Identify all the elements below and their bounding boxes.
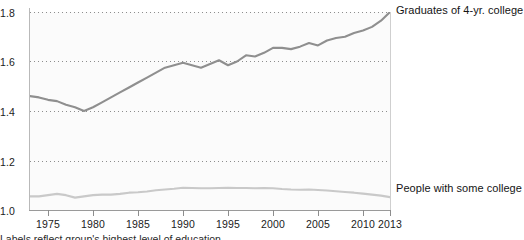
- x-tick-2010: [363, 210, 364, 216]
- chart-footnote: Labels reflect group's highest level of …: [0, 233, 524, 240]
- x-tick-label-1975: 1975: [32, 218, 64, 230]
- series-label-some-college: People with some college: [396, 182, 522, 194]
- x-tick-label-2013: 2013: [374, 218, 406, 230]
- y-tick-label-1-6: 1.6: [0, 56, 25, 68]
- x-tick-1975: [48, 210, 49, 216]
- y-tick-label-1-2: 1.2: [0, 156, 25, 168]
- plot-right-edge: [390, 12, 391, 211]
- x-tick-1985: [138, 210, 139, 216]
- x-tick-label-1980: 1980: [77, 218, 109, 230]
- x-tick-label-2005: 2005: [302, 218, 334, 230]
- x-tick-1980: [93, 210, 94, 216]
- x-tick-1995: [228, 210, 229, 216]
- x-tick-2000: [273, 210, 274, 216]
- x-tick-label-2000: 2000: [257, 218, 289, 230]
- y-tick-label-1-0: 1.0: [0, 205, 25, 217]
- line-graduates-4yr-college: [30, 12, 390, 111]
- x-tick-1990: [183, 210, 184, 216]
- x-axis-line: [29, 210, 391, 211]
- x-tick-2005: [318, 210, 319, 216]
- x-tick-label-1995: 1995: [212, 218, 244, 230]
- series-label-graduates: Graduates of 4-yr. college: [396, 4, 523, 16]
- chart-figure: 1.8 1.6 1.4 1.2 1.0 19751980198519901995…: [0, 0, 524, 240]
- line-people-with-some-college: [30, 188, 390, 198]
- x-tick-2013: [390, 210, 391, 216]
- y-tick-label-1-8: 1.8: [0, 7, 25, 19]
- x-tick-label-1985: 1985: [122, 218, 154, 230]
- series-lines: [30, 12, 390, 210]
- y-tick-label-1-4: 1.4: [0, 106, 25, 118]
- x-tick-label-1990: 1990: [167, 218, 199, 230]
